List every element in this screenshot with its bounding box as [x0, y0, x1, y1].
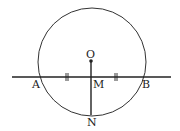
label-N: N: [87, 116, 97, 129]
geometry-diagram: O A M B N: [0, 0, 180, 131]
label-M: M: [93, 78, 104, 91]
label-A: A: [31, 78, 41, 91]
label-O: O: [86, 48, 95, 61]
label-B: B: [142, 78, 150, 91]
